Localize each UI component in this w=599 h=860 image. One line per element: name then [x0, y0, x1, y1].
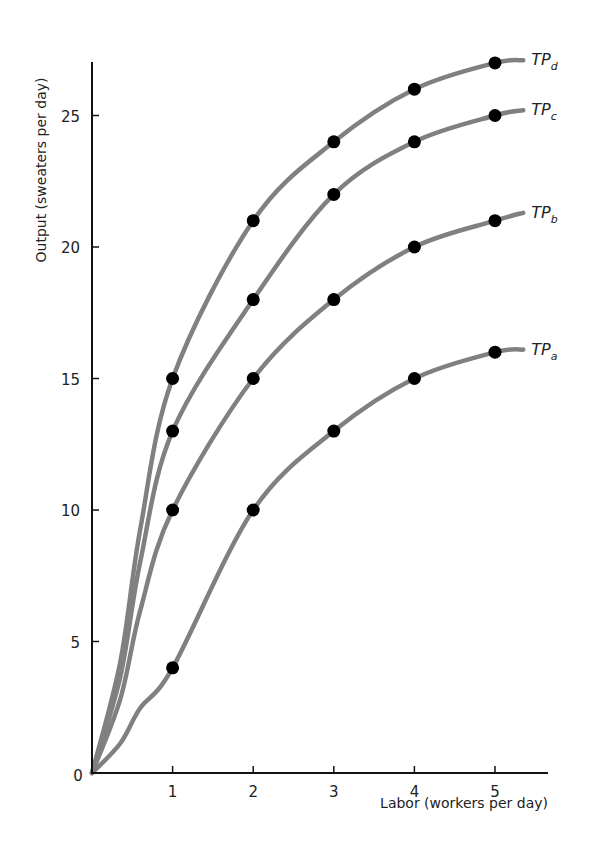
data-point-tpb	[489, 214, 502, 227]
curve-label-tpc: TPc	[531, 100, 556, 123]
data-point-tpd	[327, 135, 340, 148]
data-point-tpc	[327, 188, 340, 201]
curve-tpa	[92, 349, 523, 773]
y-tick-label: 20	[61, 239, 80, 257]
data-point-tpa	[327, 425, 340, 438]
data-point-tpb	[408, 241, 421, 254]
data-point-tpa	[247, 504, 260, 517]
data-point-tpb	[166, 504, 179, 517]
x-tick-label: 3	[329, 783, 339, 801]
y-axis-title: Output (sweaters per day)	[33, 77, 49, 262]
y-ticks: 510152025	[61, 108, 99, 652]
curve-tpd	[92, 60, 523, 773]
data-point-tpc	[489, 109, 502, 122]
y-tick-label: 5	[70, 634, 80, 652]
data-point-tpd	[408, 83, 421, 96]
data-point-tpc	[408, 135, 421, 148]
curve-label-tpd: TPd	[531, 50, 558, 73]
x-axis-title: Labor (workers per day)	[380, 795, 548, 811]
data-point-tpb	[247, 372, 260, 385]
data-point-tpa	[408, 372, 421, 385]
data-point-tpc	[166, 425, 179, 438]
y-tick-label: 15	[61, 371, 80, 389]
data-point-tpa	[489, 346, 502, 359]
data-point-tpd	[166, 372, 179, 385]
x-tick-label: 1	[168, 783, 178, 801]
curve-label-tpa: TPa	[531, 340, 557, 363]
curve-labels: TPaTPbTPcTPd	[531, 50, 558, 362]
curve-label-tpb: TPb	[531, 203, 557, 226]
data-point-tpc	[247, 293, 260, 306]
total-product-chart: 510152025 12345 0 Labor (workers per day…	[0, 0, 599, 860]
data-point-tpd	[489, 56, 502, 69]
y-tick-label: 10	[61, 502, 80, 520]
data-point-tpa	[166, 661, 179, 674]
x-tick-label: 2	[248, 783, 258, 801]
y-tick-label: 25	[61, 108, 80, 126]
data-point-tpd	[247, 214, 260, 227]
curves-layer	[92, 60, 523, 773]
data-point-tpb	[327, 293, 340, 306]
origin-label: 0	[73, 767, 83, 785]
